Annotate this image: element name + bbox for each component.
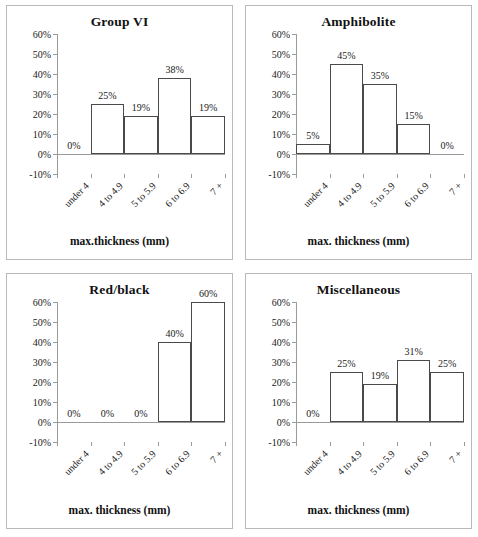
x-axis-category-text: 5 to 5.9 (368, 448, 397, 477)
y-axis-tick (53, 114, 57, 115)
y-axis-tick (53, 134, 57, 135)
bar (158, 342, 192, 422)
y-axis-tick-label: 50% (33, 317, 51, 328)
x-axis-category-text: 5 to 5.9 (368, 180, 397, 209)
bar-value-label: 45% (337, 50, 355, 61)
y-axis-tick-label: 60% (33, 297, 51, 308)
y-axis-tick (53, 322, 57, 323)
x-axis-category-text: under 4 (301, 180, 330, 209)
y-axis-tick (53, 362, 57, 363)
x-axis-tick (430, 442, 431, 446)
x-axis-category-text: 4 to 4.9 (95, 180, 124, 209)
x-axis-category-text: 5 to 5.9 (129, 180, 158, 209)
y-axis-tick-label: 30% (33, 357, 51, 368)
y-axis-tick-label: 10% (272, 129, 290, 140)
bar-value-label: 60% (199, 288, 217, 299)
x-axis-baseline (57, 422, 225, 423)
y-axis-tick-label: 30% (272, 89, 290, 100)
y-axis-tick (53, 54, 57, 55)
x-axis-category-text: 5 to 5.9 (129, 448, 158, 477)
y-axis-tick (292, 362, 296, 363)
x-axis-baseline (57, 154, 225, 155)
bar (330, 64, 364, 154)
x-axis-tick (464, 442, 465, 446)
y-axis-tick-label: 20% (33, 377, 51, 388)
plot-area-0: 60%50%40%30%20%10%0%-10%0%25%19%38%19%un… (57, 34, 225, 174)
bar (397, 124, 431, 154)
y-axis-tick-label: 10% (33, 129, 51, 140)
x-axis-tick (464, 174, 465, 178)
bar (363, 384, 397, 422)
bar-value-label: 5% (306, 130, 319, 141)
x-axis-tick (330, 174, 331, 178)
y-axis-tick (292, 402, 296, 403)
y-axis-tick (292, 322, 296, 323)
x-axis-baseline (296, 422, 464, 423)
y-axis-tick-label: 50% (33, 49, 51, 60)
y-axis-tick (292, 302, 296, 303)
x-axis-tick (430, 174, 431, 178)
bar (91, 104, 125, 154)
y-axis-tick (53, 74, 57, 75)
x-axis-baseline (296, 154, 464, 155)
x-axis-category-text: under 4 (62, 180, 91, 209)
x-axis-category-text: 4 to 4.9 (95, 448, 124, 477)
x-axis-category-text: 4 to 4.9 (334, 180, 363, 209)
bar-value-label: 40% (165, 328, 183, 339)
x-axis-title: max. thickness (mm) (246, 504, 471, 516)
y-axis-tick (53, 302, 57, 303)
y-axis-tick-label: 50% (272, 49, 290, 60)
x-axis-category-text: 6 to 6.9 (402, 180, 431, 209)
chart-grid: Group VI 60%50%40%30%20%10%0%-10%0%25%19… (0, 0, 478, 537)
y-axis-tick-label: 20% (33, 109, 51, 120)
x-axis-tick (225, 442, 226, 446)
y-axis-tick (53, 422, 57, 423)
x-axis-category-text: 6 to 6.9 (163, 448, 192, 477)
x-axis-category-text: 6 to 6.9 (163, 180, 192, 209)
y-axis-line (57, 302, 58, 442)
bar (430, 372, 464, 422)
x-axis-tick (91, 174, 92, 178)
bar-value-label: 35% (371, 70, 389, 81)
x-axis-tick (158, 442, 159, 446)
y-axis-tick-label: 30% (33, 89, 51, 100)
x-axis-category-text: 4 to 4.9 (334, 448, 363, 477)
x-axis-tick (296, 442, 297, 446)
y-axis-tick-label: 50% (272, 317, 290, 328)
bar-value-label: 25% (438, 358, 456, 369)
y-axis-tick-label: 20% (272, 377, 290, 388)
y-axis-tick (53, 342, 57, 343)
bar-value-label: 19% (199, 102, 217, 113)
bar-value-label: 15% (404, 110, 422, 121)
bar-value-label: 0% (441, 140, 454, 151)
y-axis-tick (292, 94, 296, 95)
y-axis-tick (292, 134, 296, 135)
y-axis-tick (53, 154, 57, 155)
x-axis-tick (191, 174, 192, 178)
x-axis-category-text: 6 to 6.9 (402, 448, 431, 477)
chart-panel-red-black: Red/black 60%50%40%30%20%10%0%-10%0%0%0%… (6, 273, 233, 529)
y-axis-tick (292, 74, 296, 75)
y-axis-line (296, 302, 297, 442)
y-axis-tick (53, 382, 57, 383)
bar-value-label: 0% (101, 408, 114, 419)
bar (397, 360, 431, 422)
y-axis-tick (292, 154, 296, 155)
bar-value-label: 25% (337, 358, 355, 369)
bar (158, 78, 192, 154)
y-axis-tick (292, 422, 296, 423)
x-axis-tick (397, 174, 398, 178)
x-axis-tick (363, 442, 364, 446)
y-axis-tick (53, 94, 57, 95)
y-axis-tick (53, 402, 57, 403)
bar-value-label: 0% (67, 140, 80, 151)
x-axis-title: max.thickness (mm) (7, 235, 232, 247)
x-axis-tick (91, 442, 92, 446)
x-axis-tick (57, 442, 58, 446)
y-axis-tick-label: 60% (272, 297, 290, 308)
bar-value-label: 19% (132, 102, 150, 113)
x-axis-category-text: 7 + (208, 180, 225, 197)
y-axis-tick-label: -10% (29, 169, 51, 180)
y-axis-tick-label: 40% (33, 69, 51, 80)
y-axis-tick (292, 54, 296, 55)
